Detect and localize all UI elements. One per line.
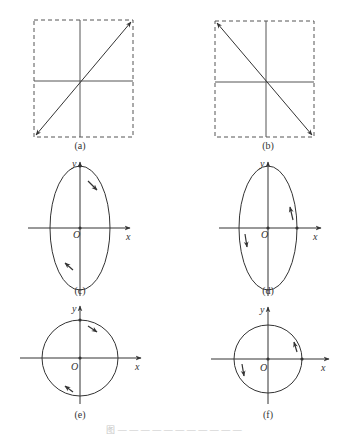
y-label: y (71, 303, 77, 314)
panel-label-f: (f) (263, 409, 273, 421)
panel-b: (b) (215, 21, 314, 152)
x-label: x (125, 231, 131, 242)
panel-c: O x y (a) (28, 158, 131, 296)
panel-f: O x y (211, 304, 329, 404)
origin-label: O (261, 229, 268, 240)
y-label: y (259, 158, 265, 169)
panel-label: (a) (74, 140, 85, 152)
panel-d: O x y (219, 158, 321, 296)
panel-a: (a) (34, 20, 133, 152)
x-label: x (320, 362, 326, 373)
double-arrow-icon (217, 23, 312, 135)
origin-dot (78, 356, 81, 359)
rotation-arrow-icon (65, 386, 73, 392)
rotation-arrow-icon (88, 181, 97, 190)
origin-label: O (71, 361, 78, 372)
right-dot (295, 226, 298, 229)
y-label: y (259, 304, 265, 315)
right-dot (300, 357, 303, 360)
double-arrow-icon (36, 22, 131, 135)
rotation-arrow-icon (294, 342, 297, 352)
rotation-arrow-icon (242, 364, 244, 376)
rotation-arrow-icon (245, 234, 247, 247)
y-label: y (71, 158, 77, 169)
polarization-figure: (a) (b) O x y (a) O x y (c) (d) (0, 0, 349, 437)
rotation-arrow-icon (290, 207, 293, 220)
rotation-arrow-icon (88, 326, 97, 332)
x-label: x (134, 361, 140, 372)
panel-label: (b) (262, 140, 274, 152)
x-label: x (312, 231, 318, 242)
origin-label: O (260, 362, 267, 373)
panel-label-c: (c) (74, 285, 85, 297)
top-dot (78, 164, 81, 167)
rotation-arrow-icon (65, 263, 73, 270)
origin-dot (266, 357, 269, 360)
origin-label: O (73, 229, 80, 240)
top-dot (78, 318, 81, 321)
figure-caption: 图 — — — — — — — — — — — (106, 425, 242, 435)
panel-label-e: (e) (74, 409, 85, 421)
panel-e: O x y (20, 303, 141, 404)
panel-label-d: (d) (262, 285, 274, 297)
